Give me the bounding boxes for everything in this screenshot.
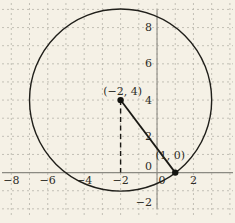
coordinate-plane: −8−6−4−202−202468(−2, 4)(1, 0): [0, 0, 235, 223]
center-point-label: (−2, 4): [103, 85, 142, 98]
x-tick-label: −6: [40, 174, 56, 187]
circle-point-label: (1, 0): [155, 149, 185, 162]
x-tick-label: −8: [3, 174, 19, 187]
y-tick-label: 0: [145, 160, 152, 173]
circle-graph-figure: −8−6−4−202−202468(−2, 4)(1, 0): [0, 0, 235, 223]
y-tick-label: −2: [136, 196, 152, 209]
center-point-dot: [117, 97, 123, 103]
x-tick-label: −2: [112, 174, 128, 187]
y-tick-label: 8: [145, 21, 152, 34]
x-tick-label: 2: [190, 174, 197, 187]
y-tick-label: 6: [145, 57, 152, 70]
figure-background: [0, 0, 235, 223]
circle-point-dot: [172, 169, 178, 175]
y-tick-label: 4: [145, 94, 152, 107]
